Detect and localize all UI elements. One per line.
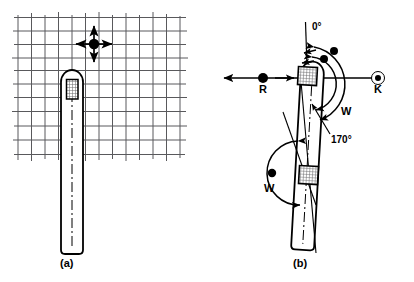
angle-zero-label: 0° — [312, 22, 322, 32]
rotation-arc-inner-dot — [320, 55, 328, 63]
transducer-element-b-top — [298, 67, 318, 86]
reference-point-r — [258, 73, 268, 83]
reference-point-r-label: R — [259, 84, 267, 95]
transducer-element-b-bottom — [299, 166, 319, 185]
transducer-element-a — [67, 80, 79, 100]
sector-width-label-lower: W — [264, 183, 274, 194]
sector-width-label-upper: W — [341, 106, 351, 117]
figure-canvas — [0, 0, 414, 282]
caption-panel-a: (a) — [60, 258, 73, 269]
angle-170-label: 170° — [331, 135, 352, 145]
rotation-arc-outer-dot — [330, 47, 338, 55]
sector-arc-lower-dot — [268, 169, 276, 177]
reference-point-k-dot — [375, 75, 381, 81]
panel-b — [224, 22, 378, 253]
reference-point-k-label: K — [374, 84, 382, 95]
caption-panel-b: (b) — [293, 258, 307, 269]
probe-panel-a — [61, 70, 83, 254]
reference-point-k-ring — [371, 71, 385, 85]
panel-a — [12, 12, 188, 254]
figure-root: (a) (b) 0° 170° R K W W — [0, 0, 414, 282]
grid-panel-a — [12, 12, 188, 161]
